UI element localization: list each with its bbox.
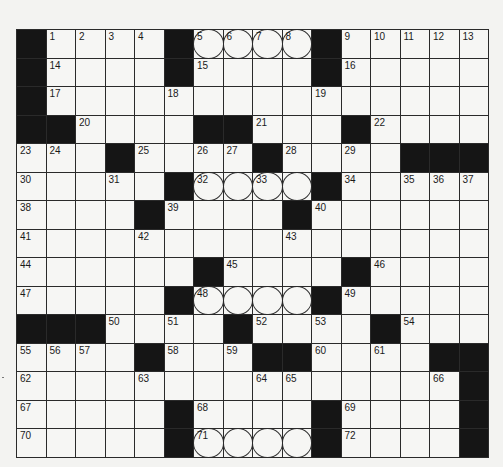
- white-square[interactable]: [430, 201, 459, 229]
- white-square[interactable]: [47, 287, 76, 315]
- circled-square[interactable]: [224, 429, 253, 457]
- white-square[interactable]: 22: [371, 116, 400, 144]
- white-square[interactable]: 64: [253, 372, 282, 400]
- white-square[interactable]: [106, 87, 135, 115]
- white-square[interactable]: [76, 173, 105, 201]
- white-square[interactable]: 46: [371, 258, 400, 286]
- white-square[interactable]: [165, 144, 194, 172]
- white-square[interactable]: [253, 230, 282, 258]
- white-square[interactable]: [76, 59, 105, 87]
- white-square[interactable]: [194, 372, 223, 400]
- white-square[interactable]: [253, 87, 282, 115]
- white-square[interactable]: 55: [17, 344, 46, 372]
- white-square[interactable]: 58: [165, 344, 194, 372]
- white-square[interactable]: 66: [430, 372, 459, 400]
- white-square[interactable]: [135, 401, 164, 429]
- white-square[interactable]: 47: [17, 287, 46, 315]
- white-square[interactable]: [106, 372, 135, 400]
- circled-square[interactable]: 8: [283, 30, 312, 58]
- white-square[interactable]: 36: [430, 173, 459, 201]
- white-square[interactable]: [224, 401, 253, 429]
- white-square[interactable]: 16: [342, 59, 371, 87]
- white-square[interactable]: [401, 116, 430, 144]
- white-square[interactable]: 51: [165, 315, 194, 343]
- white-square[interactable]: 70: [17, 429, 46, 457]
- white-square[interactable]: 49: [342, 287, 371, 315]
- white-square[interactable]: [135, 315, 164, 343]
- white-square[interactable]: [401, 230, 430, 258]
- white-square[interactable]: 26: [194, 144, 223, 172]
- white-square[interactable]: 29: [342, 144, 371, 172]
- white-square[interactable]: [371, 173, 400, 201]
- white-square[interactable]: 14: [47, 59, 76, 87]
- white-square[interactable]: [47, 401, 76, 429]
- white-square[interactable]: [401, 201, 430, 229]
- white-square[interactable]: [460, 315, 489, 343]
- circled-square[interactable]: [253, 287, 282, 315]
- circled-square[interactable]: 32: [194, 173, 223, 201]
- white-square[interactable]: [253, 401, 282, 429]
- white-square[interactable]: [106, 344, 135, 372]
- white-square[interactable]: [283, 116, 312, 144]
- white-square[interactable]: 43: [283, 230, 312, 258]
- white-square[interactable]: 67: [17, 401, 46, 429]
- white-square[interactable]: [76, 372, 105, 400]
- white-square[interactable]: [76, 87, 105, 115]
- white-square[interactable]: [371, 287, 400, 315]
- white-square[interactable]: [194, 230, 223, 258]
- white-square[interactable]: [253, 59, 282, 87]
- circled-square[interactable]: 48: [194, 287, 223, 315]
- white-square[interactable]: [106, 116, 135, 144]
- circled-square[interactable]: [283, 287, 312, 315]
- white-square[interactable]: [312, 372, 341, 400]
- white-square[interactable]: 42: [135, 230, 164, 258]
- white-square[interactable]: [460, 201, 489, 229]
- white-square[interactable]: [76, 258, 105, 286]
- white-square[interactable]: 4: [135, 30, 164, 58]
- white-square[interactable]: 72: [342, 429, 371, 457]
- white-square[interactable]: [106, 201, 135, 229]
- white-square[interactable]: 1: [47, 30, 76, 58]
- white-square[interactable]: 56: [47, 344, 76, 372]
- white-square[interactable]: [76, 144, 105, 172]
- circled-square[interactable]: 5: [194, 30, 223, 58]
- circled-square[interactable]: 33: [253, 173, 282, 201]
- white-square[interactable]: [342, 87, 371, 115]
- white-square[interactable]: 28: [283, 144, 312, 172]
- white-square[interactable]: 59: [224, 344, 253, 372]
- white-square[interactable]: 15: [194, 59, 223, 87]
- white-square[interactable]: [312, 116, 341, 144]
- white-square[interactable]: 19: [312, 87, 341, 115]
- white-square[interactable]: [253, 258, 282, 286]
- white-square[interactable]: [371, 87, 400, 115]
- white-square[interactable]: [401, 287, 430, 315]
- white-square[interactable]: 65: [283, 372, 312, 400]
- white-square[interactable]: [371, 401, 400, 429]
- white-square[interactable]: [106, 59, 135, 87]
- white-square[interactable]: [194, 344, 223, 372]
- white-square[interactable]: 57: [76, 344, 105, 372]
- white-square[interactable]: [460, 116, 489, 144]
- white-square[interactable]: [312, 258, 341, 286]
- white-square[interactable]: [401, 429, 430, 457]
- white-square[interactable]: [76, 429, 105, 457]
- white-square[interactable]: [47, 201, 76, 229]
- white-square[interactable]: 61: [371, 344, 400, 372]
- white-square[interactable]: 12: [430, 30, 459, 58]
- white-square[interactable]: [165, 116, 194, 144]
- circled-square[interactable]: 6: [224, 30, 253, 58]
- white-square[interactable]: 3: [106, 30, 135, 58]
- white-square[interactable]: 44: [17, 258, 46, 286]
- white-square[interactable]: [135, 173, 164, 201]
- white-square[interactable]: [371, 144, 400, 172]
- white-square[interactable]: [371, 230, 400, 258]
- white-square[interactable]: [283, 59, 312, 87]
- white-square[interactable]: [224, 372, 253, 400]
- white-square[interactable]: 13: [460, 30, 489, 58]
- white-square[interactable]: 54: [401, 315, 430, 343]
- white-square[interactable]: [312, 144, 341, 172]
- white-square[interactable]: [47, 429, 76, 457]
- white-square[interactable]: [165, 258, 194, 286]
- circled-square[interactable]: [283, 173, 312, 201]
- white-square[interactable]: 68: [194, 401, 223, 429]
